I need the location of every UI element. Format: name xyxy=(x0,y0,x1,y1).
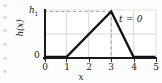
time-annotation: t = 0 xyxy=(119,14,143,24)
y-tick-label-peak-subscript: 1 xyxy=(35,10,39,17)
x-tick-label-2: 2 xyxy=(82,62,96,72)
y-axis-title: h(x) xyxy=(14,6,26,50)
x-tick-label-1: 1 xyxy=(60,62,74,72)
y-tick-label-zero: 0 xyxy=(34,50,40,60)
x-tick-label-4: 4 xyxy=(127,62,141,72)
x-tick-label-3: 3 xyxy=(104,62,118,72)
x-axis-title: x xyxy=(0,72,162,82)
figure-container: 0 1 2 3 4 5 h1 0 h(x) x t = 0 xyxy=(0,0,162,83)
x-tick-label-0: 0 xyxy=(38,62,52,72)
x-tick-label-5: 5 xyxy=(149,62,162,72)
x-axis-line xyxy=(43,57,157,59)
y-tick-label-peak: h1 xyxy=(29,5,38,17)
y-axis-line xyxy=(44,9,46,60)
